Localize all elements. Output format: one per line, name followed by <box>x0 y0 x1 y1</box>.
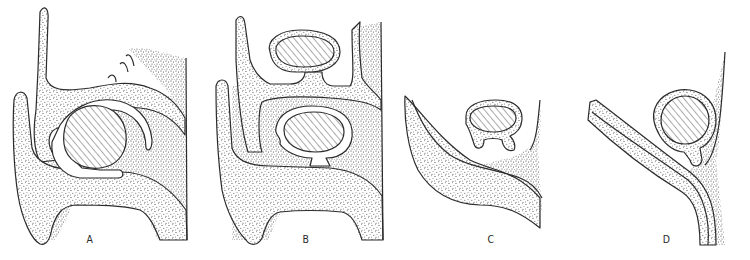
panel-b <box>216 17 383 245</box>
figure: A B C D <box>0 0 750 260</box>
panel-label-d: D <box>663 233 670 246</box>
panel-label-b: B <box>303 233 309 246</box>
panel-d <box>588 52 725 245</box>
panel-c <box>405 96 542 228</box>
diagram-svg <box>0 0 750 260</box>
panel-a <box>13 8 187 245</box>
panel-label-c: C <box>488 233 495 246</box>
panel-label-a: A <box>87 233 93 246</box>
